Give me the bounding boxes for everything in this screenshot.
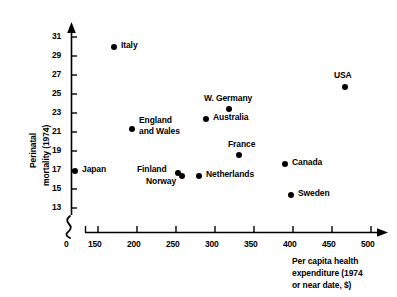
y-tick-label-13: 13 [52,203,61,212]
x-tick-label-250: 250 [166,240,180,249]
data-label-canada: Canada [292,158,322,168]
x-axis-title-line2: expenditure (1974 [292,268,363,279]
y-tick-label-21: 21 [52,127,61,136]
y-tick-label-17: 17 [52,165,61,174]
data-label-france: France [228,140,255,150]
data-point-italy [111,44,117,50]
y-axis-title-line2: mortality (1974) [41,125,51,186]
data-point-england-and-wales [129,126,135,132]
data-label-wales: and Wales [139,127,180,137]
x-axis-title-line3: or near date, $) [292,280,351,291]
x-tick-label-150: 150 [88,240,102,249]
x-axis-origin-label: 0 [64,240,69,249]
data-point-canada [282,161,288,167]
data-label-australia: Australia [213,113,248,123]
data-label-italy: Italy [121,41,138,51]
data-point-japan [72,168,78,174]
x-axis-title-line1: Per capita health [292,256,358,267]
y-tick-label-19: 19 [52,146,61,155]
x-tick-label-300: 300 [205,240,219,249]
x-tick-label-500: 500 [361,240,375,249]
y-axis-title-line1: Perinatal [28,133,38,168]
y-tick-label-31: 31 [52,32,61,41]
data-point-norway [179,173,185,179]
scatter-chart: Perinatal mortality (1974) 31 29 27 25 2… [0,0,397,297]
y-tick-label-25: 25 [52,89,61,98]
x-tick-label-200: 200 [127,240,141,249]
data-label-usa: USA [334,71,352,81]
data-point-france [236,152,242,158]
y-tick-label-29: 29 [52,51,61,60]
y-tick-label-15: 15 [52,184,61,193]
x-tick-label-450: 450 [322,240,336,249]
x-tick-label-350: 350 [244,240,258,249]
y-tick-label-23: 23 [52,108,61,117]
data-point-sweden [288,192,294,198]
data-point-australia [203,116,209,122]
data-label-sweden: Sweden [298,189,330,199]
data-label-norway: Norway [146,177,176,187]
data-label-netherlands: Netherlands [206,170,254,180]
x-tick-label-400: 400 [283,240,297,249]
data-point-usa [342,84,348,90]
data-point-netherlands [196,173,202,179]
data-label-w-germany: W. Germany [204,94,252,104]
y-tick-label-27: 27 [52,70,61,79]
data-label-finland: Finland [137,165,167,175]
data-label-england: England [139,116,172,126]
data-label-japan: Japan [82,165,106,175]
